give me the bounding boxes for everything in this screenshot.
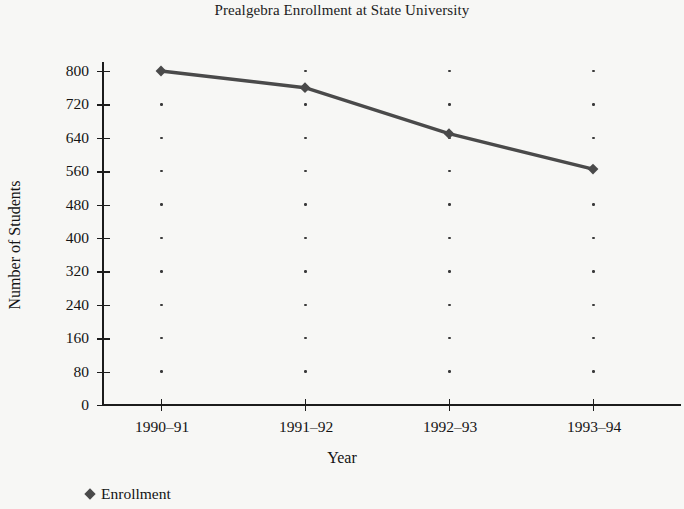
grid-dot [448, 103, 450, 105]
y-axis-tick-label-text: 720 [33, 95, 89, 113]
grid-dot [304, 203, 306, 205]
grid-dot [160, 103, 162, 105]
y-axis-tick-label: 480 [33, 196, 89, 212]
x-axis-tick-mark [593, 399, 594, 411]
enrollment-line [161, 71, 593, 169]
y-axis-tick-label: 160 [33, 329, 89, 345]
y-axis-tick-label-text: 560 [33, 162, 89, 180]
y-axis-line [102, 62, 104, 406]
y-axis-tick-label-text: 400 [33, 229, 89, 247]
x-axis-tick-label: 1990–91 [97, 418, 227, 436]
x-axis-tick-mark [305, 399, 306, 411]
y-axis-tick-label: 400 [33, 229, 89, 245]
grid-dot [160, 370, 162, 372]
y-axis-tick-label-text: 0 [33, 396, 89, 414]
grid-dot [448, 70, 450, 72]
x-axis-title: Year [0, 449, 684, 467]
grid-dot [448, 170, 450, 172]
y-axis-tick-label-text: 320 [33, 262, 89, 280]
grid-dot [592, 237, 594, 239]
chart-title: Prealgebra Enrollment at State Universit… [0, 2, 684, 19]
grid-dot [160, 237, 162, 239]
x-axis-tick-mark [449, 399, 450, 411]
grid-dot [592, 337, 594, 339]
y-axis-tick-label-text: 480 [33, 196, 89, 214]
grid-dot [448, 137, 450, 139]
grid-dot [448, 304, 450, 306]
enrollment-markers [156, 66, 599, 175]
grid-dot [448, 370, 450, 372]
grid-dot [304, 170, 306, 172]
y-axis-tick-label-text: 640 [33, 129, 89, 147]
y-axis-tick-label: 80 [33, 363, 89, 379]
grid-dot [304, 304, 306, 306]
y-axis-tick-label: 560 [33, 162, 89, 178]
grid-dot [304, 103, 306, 105]
y-axis-tick-label: 240 [33, 296, 89, 312]
x-axis-tick-label: 1993–94 [529, 418, 659, 436]
grid-dot [160, 137, 162, 139]
grid-dot [304, 337, 306, 339]
grid-dot [592, 103, 594, 105]
data-point-marker [300, 82, 311, 93]
grid-dot [592, 203, 594, 205]
grid-dot [592, 304, 594, 306]
legend-label-enrollment: Enrollment [101, 485, 171, 503]
grid-dot [448, 337, 450, 339]
grid-dot [304, 70, 306, 72]
grid-dot [592, 370, 594, 372]
y-axis-tick-label: 0 [33, 396, 89, 412]
y-axis-tick-label: 800 [33, 62, 89, 78]
y-axis-tick-label: 640 [33, 129, 89, 145]
grid-dot [592, 270, 594, 272]
grid-dot [304, 137, 306, 139]
legend-diamond-icon [84, 488, 95, 499]
grid-dot [160, 304, 162, 306]
y-axis-title: Number of Students [6, 181, 24, 310]
y-axis-tick-label-text: 800 [33, 62, 89, 80]
grid-dot [160, 270, 162, 272]
x-axis-tick-label: 1992–93 [385, 418, 515, 436]
x-axis-tick-label: 1991–92 [241, 418, 371, 436]
grid-dot [448, 237, 450, 239]
grid-dot [448, 270, 450, 272]
grid-dot [592, 70, 594, 72]
line-chart: Prealgebra Enrollment at State Universit… [0, 0, 684, 509]
grid-dot [304, 237, 306, 239]
grid-dot [448, 203, 450, 205]
grid-dot [592, 137, 594, 139]
y-axis-tick-label-text: 240 [33, 296, 89, 314]
grid-dot [592, 170, 594, 172]
legend: Enrollment [86, 485, 171, 503]
x-axis-tick-mark [161, 399, 162, 411]
y-axis-title-container: Number of Students [2, 120, 28, 370]
grid-dot [160, 170, 162, 172]
grid-dot [160, 70, 162, 72]
y-axis-tick-label: 720 [33, 95, 89, 111]
y-axis-tick-label-text: 160 [33, 329, 89, 347]
grid-dot [304, 370, 306, 372]
grid-dot [160, 337, 162, 339]
y-axis-tick-label-text: 80 [33, 363, 89, 381]
y-axis-tick-label: 320 [33, 262, 89, 278]
grid-dot [304, 270, 306, 272]
grid-dot [160, 203, 162, 205]
